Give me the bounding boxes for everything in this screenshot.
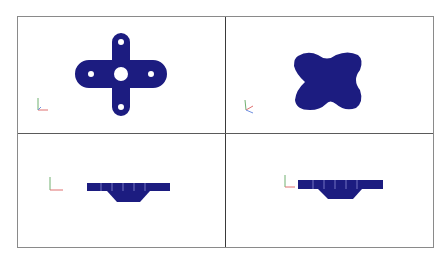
axis-triad-icon bbox=[245, 100, 253, 113]
part-isometric-view bbox=[294, 53, 362, 111]
viewport-side-view[interactable] bbox=[285, 175, 383, 199]
viewport-isometric-view[interactable] bbox=[245, 53, 362, 114]
axis-triad-icon bbox=[50, 177, 63, 190]
part-front-profile bbox=[87, 183, 170, 202]
axis-triad-icon bbox=[38, 98, 48, 110]
part-top-view bbox=[75, 33, 167, 116]
viewport-top-view[interactable] bbox=[38, 33, 167, 116]
axis-triad-icon bbox=[285, 175, 295, 187]
viewport-front-view[interactable] bbox=[50, 177, 170, 202]
viewports-canvas bbox=[0, 0, 448, 259]
part-side-profile bbox=[298, 180, 383, 199]
